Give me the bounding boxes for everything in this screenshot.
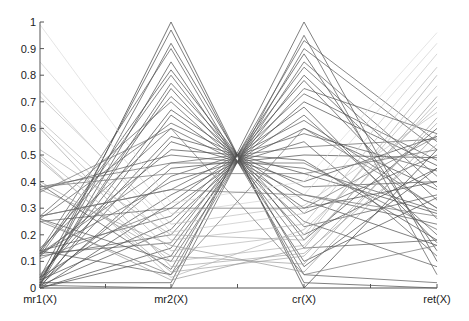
axis-label-mr2x: mr2(X) — [154, 293, 188, 305]
axis-label-crx: cr(X) — [292, 293, 316, 305]
y-tick-label: 0.5 — [21, 149, 36, 161]
data-lines — [40, 22, 437, 288]
y-tick-label: 0.2 — [21, 229, 36, 241]
data-line — [40, 107, 437, 288]
y-tick-label: 0.8 — [21, 69, 36, 81]
axis-label-retx: ret(X) — [423, 293, 451, 305]
y-tick-label: 0.4 — [21, 176, 36, 188]
y-tick-label: 0.3 — [21, 202, 36, 214]
axis-label-mr1x: mr1(X) — [23, 293, 57, 305]
y-tick-label: 0.1 — [21, 255, 36, 267]
y-tick-label: 0.9 — [21, 43, 36, 55]
y-tick-label: 0.7 — [21, 96, 36, 108]
axis-labels: mr1(X)mr2(X)cr(X)ret(X) — [23, 293, 451, 305]
y-tick-label: 0.6 — [21, 122, 36, 134]
y-tick-label: 1 — [30, 16, 36, 28]
parallel-coordinates-chart: 00.10.20.30.40.50.60.70.80.91 mr1(X)mr2(… — [0, 0, 469, 321]
